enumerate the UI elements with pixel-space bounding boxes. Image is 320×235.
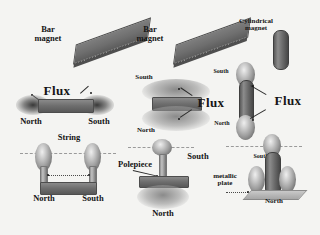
bar-magnet-1-label-line2: magnet	[35, 33, 62, 43]
south-label-right: South	[204, 68, 238, 74]
south-label-left-3: South	[71, 194, 115, 203]
metallic-plate-leader-dot	[247, 191, 249, 193]
flux-leader-left-b-dot	[90, 92, 92, 94]
south-label-mid-3: South	[176, 152, 220, 161]
bar-magnet-2-label: Bar magnet	[118, 25, 182, 43]
north-label-right: North	[205, 120, 239, 126]
north-label-left-3: North	[22, 194, 66, 203]
gap-arrow-left	[48, 175, 88, 176]
gap-arrow-left-dot-a	[47, 174, 49, 176]
gap-arrow-left-dot-b	[88, 174, 90, 176]
flux-leader-mid-a-dot	[178, 88, 180, 90]
magnetic-flux-diagram: Bar magnet Flux North South String North…	[0, 0, 320, 235]
flux-label-right: Flux	[264, 94, 312, 108]
north-label-mid-3: North	[140, 209, 186, 218]
bar-magnet-1-label: Bar magnet	[16, 25, 80, 43]
flux-label-mid: Flux	[188, 96, 234, 110]
flux-leader-mid-b-dot	[178, 118, 180, 120]
metallic-plate-leader	[226, 192, 248, 193]
metallic-plate-label-line2: plate	[218, 179, 233, 187]
north-label-mid: North	[128, 127, 164, 134]
bar-magnet-2-label-line2: magnet	[137, 33, 164, 43]
flux-leader-right-b-dot	[252, 119, 254, 121]
south-label-left: South	[76, 117, 122, 126]
flux-bulb-right-plate-right	[279, 166, 296, 193]
flux-leader-right-a-dot	[252, 85, 254, 87]
flux-leader-left-b	[80, 86, 89, 94]
polepiece-label: Polepiece	[107, 160, 163, 169]
cylindrical-magnet-solid	[273, 30, 289, 70]
metallic-plate-label: metallic plate	[196, 173, 254, 188]
string-label: String	[47, 133, 91, 142]
bar-magnet-2-solid	[38, 99, 94, 113]
north-label-right-3: North	[252, 198, 296, 205]
cylindrical-magnet-label-line2: magnet	[245, 24, 267, 32]
north-label-left: North	[8, 117, 54, 126]
flux-mid-north-3	[137, 185, 189, 209]
